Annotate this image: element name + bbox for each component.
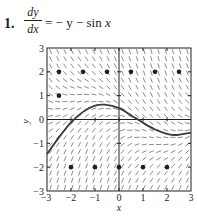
slope-segment bbox=[114, 143, 117, 147]
slope-segment bbox=[121, 78, 124, 82]
y-tick-label: 0 bbox=[39, 114, 44, 125]
slope-segment bbox=[93, 142, 96, 147]
x-axis-label: x bbox=[116, 202, 122, 213]
slope-segment bbox=[142, 114, 146, 118]
slope-segment bbox=[92, 79, 96, 82]
slope-segment bbox=[171, 157, 175, 160]
slope-segment bbox=[49, 136, 53, 140]
slope-segment bbox=[149, 121, 153, 124]
slope-segment bbox=[99, 128, 103, 132]
slope-segment bbox=[106, 129, 110, 132]
slope-segment bbox=[64, 156, 66, 161]
slope-segment bbox=[172, 92, 175, 97]
slope-segment bbox=[85, 64, 88, 68]
slope-segment bbox=[85, 121, 89, 125]
slope-segment bbox=[50, 178, 52, 183]
x-tick-label: 1 bbox=[141, 192, 146, 203]
slope-segment bbox=[143, 71, 145, 76]
slope-segment bbox=[156, 137, 161, 138]
slope-segment bbox=[179, 178, 181, 183]
slope-segment bbox=[150, 178, 153, 182]
slope-segment bbox=[64, 171, 66, 176]
slope-segment bbox=[165, 49, 166, 54]
slope-segment bbox=[186, 85, 189, 89]
slope-segment bbox=[121, 164, 124, 168]
slope-segment bbox=[165, 92, 167, 97]
slope-segment bbox=[185, 130, 190, 131]
slope-segment bbox=[121, 143, 125, 146]
slope-segment bbox=[136, 178, 139, 183]
slope-segment bbox=[86, 164, 88, 169]
slope-segment bbox=[179, 92, 182, 96]
slope-segment bbox=[142, 144, 147, 145]
slope-segment bbox=[79, 178, 80, 183]
slope-segment bbox=[149, 137, 154, 138]
y-axis-label: y bbox=[20, 119, 31, 125]
slope-segment bbox=[93, 185, 94, 190]
slope-segment bbox=[185, 115, 190, 117]
slope-segment bbox=[143, 85, 145, 90]
slope-segment bbox=[179, 100, 182, 104]
slope-segment bbox=[171, 171, 174, 175]
slope-segment bbox=[178, 107, 182, 111]
slope-segment bbox=[99, 115, 104, 117]
slope-segment bbox=[179, 49, 181, 54]
slope-segment bbox=[136, 56, 138, 61]
slope-segment bbox=[128, 171, 131, 175]
slope-segment bbox=[70, 79, 74, 82]
slope-segment bbox=[91, 108, 96, 110]
slope-segment bbox=[85, 135, 88, 139]
slope-segment bbox=[78, 128, 81, 132]
slope-segment bbox=[113, 129, 118, 132]
slope-segment bbox=[136, 171, 139, 175]
slope-segment bbox=[57, 171, 59, 176]
slope-segment bbox=[143, 178, 146, 182]
slope-segment bbox=[128, 100, 131, 104]
slope-segment bbox=[78, 64, 81, 68]
slope-segment bbox=[107, 49, 109, 54]
slope-segment bbox=[142, 129, 147, 131]
x-tick-label: −1 bbox=[90, 192, 101, 203]
slope-segment bbox=[150, 99, 153, 103]
slope-segment bbox=[179, 171, 182, 175]
slope-segment bbox=[121, 171, 123, 176]
slope-segment bbox=[84, 101, 89, 102]
slope-segment bbox=[70, 94, 75, 95]
slope-segment bbox=[151, 56, 152, 61]
slope-segment bbox=[143, 171, 146, 175]
slope-segment bbox=[136, 92, 139, 96]
slope-segment bbox=[57, 149, 60, 154]
slope-segment bbox=[55, 115, 60, 117]
slope-segment bbox=[93, 171, 95, 176]
y-tick-label: −2 bbox=[33, 162, 44, 173]
slope-segment bbox=[92, 71, 96, 75]
slope-segment bbox=[64, 149, 66, 154]
slope-segment bbox=[151, 63, 153, 68]
slope-segment bbox=[157, 107, 160, 111]
slope-segment bbox=[114, 64, 116, 69]
slope-segment bbox=[135, 144, 140, 146]
slope-segment bbox=[179, 78, 181, 83]
slope-segment bbox=[57, 164, 59, 169]
slope-segment bbox=[136, 78, 138, 83]
slope-segment bbox=[48, 129, 52, 132]
slope-segment bbox=[129, 78, 131, 83]
slope-segment bbox=[186, 157, 189, 161]
slope-segment bbox=[179, 164, 182, 168]
slope-segment bbox=[121, 150, 124, 154]
slope-segment bbox=[100, 178, 102, 183]
slope-segment bbox=[187, 49, 189, 54]
slope-segment bbox=[85, 57, 88, 61]
slope-segment bbox=[157, 114, 161, 118]
slope-segment bbox=[158, 56, 159, 61]
slope-segment bbox=[107, 185, 109, 190]
slope-segment bbox=[120, 130, 125, 131]
slope-segment bbox=[157, 171, 160, 175]
slope-segment bbox=[93, 178, 95, 183]
slope-segment bbox=[129, 178, 131, 183]
y-tick-label: 1 bbox=[39, 90, 44, 101]
slope-segment bbox=[92, 57, 95, 61]
slope-segment bbox=[178, 150, 182, 153]
slope-segment bbox=[70, 108, 75, 110]
slope-segment bbox=[165, 56, 167, 61]
